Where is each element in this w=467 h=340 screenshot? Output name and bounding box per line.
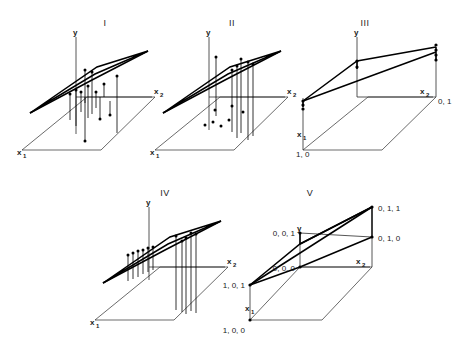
panel-4-x1-sub: 1 [96, 323, 100, 329]
panel-1: I [17, 18, 164, 159]
figure-canvas: I [0, 0, 467, 340]
panel-1-fitted-surface [30, 51, 148, 113]
panel-5: V y x [223, 188, 401, 335]
panel-2-x2-label: x [287, 87, 292, 96]
panel-5-base-plane [250, 267, 372, 320]
panel-2-x1-sub: 1 [156, 153, 160, 159]
panel-2-fitted-surface [163, 51, 281, 113]
panel-4-axis-labels: y x 1 x 2 [90, 198, 237, 329]
panel-3-axis-labels: y x 1 x 2 [297, 28, 430, 141]
panel-5-axis-labels: y x 1 x 2 [245, 224, 366, 315]
panel-2-axis-labels: y x 1 x 2 [150, 28, 297, 159]
panel-5-x1-label: x [245, 304, 250, 313]
panel-1-x2-label: x [154, 87, 159, 96]
panel-3-x1-sub: 1 [303, 135, 307, 141]
panel-4-x1-label: x [90, 318, 95, 327]
panel-4-y-label: y [146, 198, 151, 207]
panel-5-title: V [307, 188, 314, 198]
panel-5-coord-x1-base: 1, 0, 0 [223, 326, 246, 335]
panel-2-y-label: y [206, 28, 211, 37]
panel-3-fitted-surface [303, 47, 436, 107]
panel-3-base-plane [303, 97, 436, 150]
panel-2-base-dots [204, 105, 245, 128]
panel-3-coord-x2: 0, 1 [438, 97, 452, 106]
panel-1-y-label: y [73, 28, 78, 37]
panel-2: II [150, 18, 297, 159]
panel-1-x1-label: x [17, 148, 22, 157]
panel-5-fitted-surface [250, 207, 372, 285]
panel-5-x1-sub: 1 [251, 309, 255, 315]
panel-5-coord-x1-top: 1, 0, 1 [223, 281, 246, 290]
panel-1-title: I [103, 18, 106, 28]
panel-4-x2-sub: 2 [233, 262, 237, 268]
panel-2-x1-label: x [150, 148, 155, 157]
panel-4: IV y x 1 x [90, 188, 237, 329]
panel-2-title: II [229, 18, 235, 28]
panel-5-y-label: y [297, 224, 302, 233]
panel-4-x2-label: x [227, 257, 232, 266]
panel-5-coord-origin: 0, 0, 0 [273, 264, 296, 273]
panel-5-coord-x2-top: 0, 1, 1 [378, 204, 401, 213]
panel-5-coord-x2-base: 0, 1, 0 [378, 234, 401, 243]
panel-3-y-label: y [354, 28, 359, 37]
panel-3-coord-x1: 1, 0 [296, 150, 310, 159]
panel-4-fitted-surface [103, 221, 221, 283]
panel-3-x1-label: x [297, 130, 302, 139]
panel-4-stems [127, 232, 198, 315]
panel-1-x1-sub: 1 [23, 153, 27, 159]
panel-3-x2-label: x [420, 87, 425, 96]
panel-3-title: III [360, 18, 369, 28]
panel-1-x2-sub: 2 [160, 92, 164, 98]
panel-2-x2-sub: 2 [293, 92, 297, 98]
panel-5-coord-y-top: 0, 0, 1 [273, 229, 296, 238]
panel-2-axes [209, 37, 285, 130]
panel-5-x2-label: x [356, 257, 361, 266]
panel-4-title: IV [160, 188, 170, 198]
panel-5-vertex-dots [248, 205, 373, 321]
panel-5-coordinate-labels: 0, 0, 1 0, 0, 0 1, 0, 1 1, 0, 0 0, 1, 1 … [223, 204, 401, 335]
panel-1-axis-labels: y x 1 x 2 [17, 28, 164, 159]
panel-3: III y [296, 18, 452, 159]
